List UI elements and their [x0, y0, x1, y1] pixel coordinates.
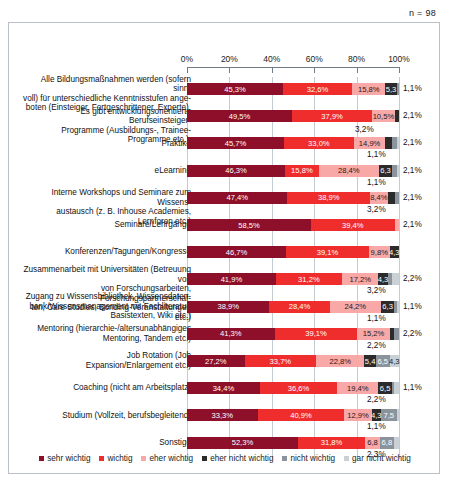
bar-segment[interactable]: 15,8%: [352, 83, 385, 95]
stacked-bar[interactable]: 45,3%32,6%15,8%5,3: [187, 83, 399, 95]
bar-segment-value: 6,8: [367, 438, 378, 447]
stacked-bar[interactable]: 27,2%33,7%22,8%5,46,54,3: [187, 355, 399, 367]
bar-segment[interactable]: 34,4%: [187, 382, 260, 394]
bar-segment[interactable]: 10,5%: [372, 110, 394, 122]
bar-segment[interactable]: 33,0%: [284, 137, 354, 149]
stacked-bar[interactable]: 46,3%15,8%28,4%6,3: [187, 165, 399, 177]
bar-segment[interactable]: 9,8%: [369, 246, 390, 258]
bar-segment[interactable]: 36,6%: [260, 382, 337, 394]
axis-tick-label: 20%: [221, 54, 238, 64]
bar-segment[interactable]: 39,1%: [275, 328, 358, 340]
axis-line: [187, 67, 399, 68]
bar-segment[interactable]: [397, 137, 399, 149]
bar-segment[interactable]: [395, 192, 399, 204]
bar-segment[interactable]: 28,4%: [269, 301, 329, 313]
stacked-bar[interactable]: 49,5%37,9%10,5%: [187, 110, 399, 122]
bar-segment[interactable]: 5,4: [364, 355, 375, 367]
axis-tick: [399, 67, 400, 73]
stacked-bar[interactable]: 41,9%31,2%17,2%4,3: [187, 273, 399, 285]
bar-segment[interactable]: [385, 137, 392, 149]
stacked-bar[interactable]: 33,3%40,9%12,9%4,37,5: [187, 409, 399, 421]
bar-segment[interactable]: 40,9%: [258, 409, 345, 421]
bar-segment[interactable]: 31,8%: [298, 437, 365, 449]
legend-item[interactable]: nicht wichtig: [282, 454, 335, 463]
stacked-bar[interactable]: 45,7%33,0%14,9%: [187, 137, 399, 149]
bar-segment[interactable]: 33,7%: [245, 355, 316, 367]
bar-segment[interactable]: 38,9%: [187, 301, 269, 313]
bar-segment[interactable]: 45,7%: [187, 137, 284, 149]
bar-segment[interactable]: 41,3%: [187, 328, 275, 340]
bar-segment[interactable]: 19,4%: [337, 382, 378, 394]
bar-segment[interactable]: 15,8%: [285, 165, 318, 177]
stacked-bar[interactable]: 47,4%38,9%8,4%: [187, 192, 399, 204]
bar-segment[interactable]: 6,8: [380, 437, 394, 449]
bar-segment[interactable]: 7,5: [381, 409, 397, 421]
stacked-bar[interactable]: 34,4%36,6%19,4%6,5: [187, 382, 399, 394]
bar-segment[interactable]: [394, 437, 399, 449]
legend-swatch-icon: [99, 456, 104, 461]
bar-segment[interactable]: 17,2%: [342, 273, 378, 285]
bar-segment[interactable]: 38,9%: [287, 192, 369, 204]
legend-item[interactable]: gar nicht wichtig: [344, 454, 411, 463]
bar-segment[interactable]: 6,3: [381, 301, 394, 313]
bar-segment[interactable]: 39,1%: [286, 246, 369, 258]
bar-segment[interactable]: 8,4%: [370, 192, 388, 204]
stacked-bar[interactable]: 52,3%31,8%6,86,8: [187, 437, 399, 449]
bar-segment[interactable]: 58,5%: [187, 219, 311, 231]
bar-segment[interactable]: 15,2%: [357, 328, 389, 340]
bar-segment[interactable]: [394, 382, 399, 394]
bar-segment[interactable]: 4,3: [390, 246, 399, 258]
bar-segment[interactable]: [397, 165, 399, 177]
stacked-bar[interactable]: 58,5%39,4%: [187, 219, 399, 231]
stacked-bar[interactable]: 46,7%39,1%9,8%4,3: [187, 246, 399, 258]
bar-segment[interactable]: 22,8%: [316, 355, 364, 367]
bar-segment[interactable]: [397, 83, 399, 95]
bar-segment[interactable]: 33,3%: [187, 409, 258, 421]
bar-segment[interactable]: [394, 328, 399, 340]
bar-segment[interactable]: 4,3: [372, 409, 381, 421]
bar-segment[interactable]: 12,9%: [344, 409, 371, 421]
bar-segment[interactable]: 41,9%: [187, 273, 276, 285]
bar-segment[interactable]: [397, 409, 399, 421]
bar-segment[interactable]: 6,5: [378, 382, 392, 394]
bar-segment[interactable]: [397, 301, 399, 313]
bar-segment[interactable]: [388, 192, 395, 204]
bar-segment[interactable]: 31,2%: [276, 273, 342, 285]
legend-item[interactable]: sehr wichtig: [39, 454, 90, 463]
legend-item[interactable]: eher wichtig: [141, 454, 193, 463]
stacked-bar[interactable]: 38,9%28,4%24,2%6,3: [187, 301, 399, 313]
bar-segment[interactable]: 37,9%: [292, 110, 372, 122]
bar-segment[interactable]: 46,3%: [187, 165, 285, 177]
bar-row: Konferenzen/Tagungen/Kongresse46,7%39,1%…: [9, 240, 441, 267]
row-category-label: Job Rotation (JobExpansion/Enlargement e…: [23, 351, 191, 370]
bar-segment[interactable]: 5,3: [385, 83, 396, 95]
bar-segment[interactable]: 52,3%: [187, 437, 298, 449]
legend-item[interactable]: wichtig: [99, 454, 132, 463]
bar-segment[interactable]: 28,4%: [319, 165, 379, 177]
bar-segment[interactable]: 4,3: [390, 355, 399, 367]
bar-segment[interactable]: 4,3: [378, 273, 387, 285]
bar-segment-value: 19,4%: [347, 384, 369, 393]
bar-segment[interactable]: 6,3: [379, 165, 392, 177]
bar-segment[interactable]: 39,4%: [311, 219, 395, 231]
bar-track: 41,3%39,1%15,2%: [187, 328, 399, 340]
bar-row: Alle Bildungsmaßnahmen werden (sofern si…: [9, 77, 441, 104]
bar-segment[interactable]: 6,8: [365, 437, 379, 449]
bar-segment-value: 31,2%: [298, 275, 320, 284]
bar-segment[interactable]: 27,2%: [187, 355, 245, 367]
bar-segment[interactable]: 32,6%: [283, 83, 352, 95]
axis-tick-label: 100%: [388, 54, 410, 64]
bar-track: 47,4%38,9%8,4%: [187, 192, 399, 204]
bar-segment[interactable]: 47,4%: [187, 192, 287, 204]
stacked-bar[interactable]: 41,3%39,1%15,2%: [187, 328, 399, 340]
bar-segment[interactable]: [395, 110, 399, 122]
bar-segment[interactable]: 45,3%: [187, 83, 283, 95]
legend-item[interactable]: eher nicht wichtig: [202, 454, 273, 463]
bar-segment[interactable]: 49,5%: [187, 110, 292, 122]
bar-segment[interactable]: [395, 219, 399, 231]
bar-segment[interactable]: 6,5: [376, 355, 390, 367]
bar-segment[interactable]: 24,2%: [330, 301, 381, 313]
bar-segment[interactable]: 46,7%: [187, 246, 286, 258]
bar-segment[interactable]: 14,9%: [354, 137, 386, 149]
bar-segment[interactable]: [392, 273, 399, 285]
